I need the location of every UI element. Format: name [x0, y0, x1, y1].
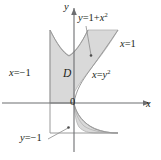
- math-figure: y=1+x2 x=1 x=−1 D x=y2 y=−1 y x 0: [0, 0, 161, 160]
- label-curve-top-exponent: 2: [104, 11, 107, 18]
- label-left-bound: x=−1: [9, 68, 31, 79]
- shaded-region-upper: [50, 30, 118, 103]
- y-axis-arrowhead: [71, 8, 77, 15]
- label-parabola-side-exponent: 2: [107, 68, 110, 75]
- label-bottom-bound: y=−1: [20, 133, 42, 144]
- shaded-region-lower: [50, 103, 118, 133]
- label-region-d: D: [63, 68, 71, 80]
- label-bottom-bound-rhs: −1: [31, 132, 42, 143]
- label-parabola-side: x=y2: [92, 70, 111, 81]
- label-right-bound-rhs: 1: [131, 38, 136, 49]
- leader-dot-curve-top: [90, 54, 93, 57]
- label-y-axis: y: [64, 2, 69, 13]
- label-origin: 0: [70, 97, 75, 108]
- leader-dot-bottom-bound: [67, 126, 70, 129]
- label-left-bound-rhs: −1: [20, 67, 31, 78]
- label-curve-top: y=1+x2: [78, 13, 108, 24]
- label-x-axis: x: [146, 99, 151, 110]
- label-right-bound: x=1: [120, 39, 136, 50]
